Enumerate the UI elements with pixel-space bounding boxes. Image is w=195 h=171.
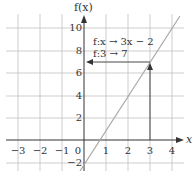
y-tick-label: 10 — [69, 23, 82, 33]
x-tick-label: −1 — [55, 146, 70, 156]
x-tick-label: −2 — [33, 146, 48, 156]
x-tick-label: 4 — [169, 146, 175, 156]
mapping-example-annotation: f:3 → 7 — [93, 49, 128, 59]
x-tick-label: 1 — [103, 146, 109, 156]
function-graph — [0, 0, 195, 171]
x-axis-arrowhead-icon — [176, 137, 184, 143]
x-tick-label: −3 — [11, 146, 26, 156]
mapping-rule-annotation: f:x → 3x − 2 — [93, 37, 154, 47]
y-tick-label: 8 — [76, 46, 82, 56]
y-tick-label: 4 — [76, 91, 82, 101]
mapping-arrows — [90, 62, 150, 140]
y-tick-label: 2 — [76, 113, 82, 123]
origin-label: 0 — [75, 146, 81, 156]
y-tick-label: −2 — [67, 158, 82, 168]
x-axis-title: x — [186, 134, 192, 145]
x-tick-label: 3 — [147, 146, 153, 156]
y-tick-label: 6 — [76, 68, 82, 78]
arrow-left-icon — [86, 59, 93, 65]
y-axis-title: f(x) — [74, 2, 93, 13]
x-tick-label: 2 — [125, 146, 131, 156]
